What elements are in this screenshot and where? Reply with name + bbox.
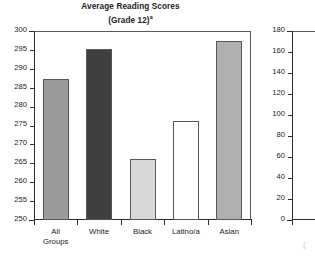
x-axis-label-line: Asian	[208, 227, 251, 237]
x-axis-label-line: Groups	[34, 237, 77, 247]
x-axis-label-line: Black	[121, 227, 164, 237]
x-axis-label-line: White	[77, 227, 120, 237]
chart-subtitle: (Grade 12)	[108, 16, 150, 25]
secondary-y-axis-tick-label: 60	[277, 152, 285, 160]
x-axis-label-asian: Asian	[208, 227, 251, 237]
x-axis-tick-mark	[34, 220, 35, 225]
secondary-y-axis-tick-label: 100	[272, 110, 285, 118]
y-axis-tick-label: 290	[14, 64, 27, 72]
bar-series	[34, 31, 251, 220]
y-axis-tick-label: 255	[14, 196, 27, 204]
x-axis-tick-mark	[208, 220, 209, 225]
chart-title-line-2: (Grade 12)a	[28, 12, 233, 26]
x-axis-label-line: All	[34, 227, 77, 237]
bar-latino-a	[173, 121, 199, 220]
secondary-y-axis-tick-label: 20	[277, 194, 285, 202]
x-axis-label-white: White	[77, 227, 120, 237]
secondary-y-axis-tick-mark	[288, 52, 292, 53]
page-title: Average Reading Scores (Grade 12)a	[28, 2, 233, 27]
secondary-y-axis-tick-label: 160	[272, 47, 285, 55]
bar-white	[86, 49, 112, 220]
y-axis-tick-label: 295	[14, 45, 27, 53]
secondary-y-axis-tick-label: 120	[272, 89, 285, 97]
y-axis-tick-label: 270	[14, 139, 27, 147]
secondary-x-tick	[292, 220, 293, 225]
secondary-y-axis-tick-mark	[288, 94, 292, 95]
secondary-y-axis-tick-mark	[288, 136, 292, 137]
bar-all-groups	[43, 79, 69, 220]
secondary-chart-plot-area	[292, 31, 315, 220]
secondary-y-axis-tick-label: 140	[272, 68, 285, 76]
y-axis-tick-label: 285	[14, 83, 27, 91]
secondary-y-axis-tick-mark	[287, 31, 293, 32]
secondary-y-axis-tick-label: 180	[272, 26, 285, 34]
x-axis-label-line: Latino/a	[164, 227, 207, 237]
secondary-y-axis-tick-mark	[288, 199, 292, 200]
secondary-y-axis-tick-label: 40	[277, 173, 285, 181]
x-axis-label-all-groups: AllGroups	[34, 227, 77, 248]
x-axis-tick-mark	[77, 220, 78, 225]
y-axis-tick-label: 300	[14, 26, 27, 34]
y-axis-tick-label: 280	[14, 101, 27, 109]
secondary-y-axis-tick-mark	[288, 178, 292, 179]
bar-black	[130, 159, 156, 220]
secondary-y-axis-tick-label: 0	[281, 215, 285, 223]
x-axis-label-latino-a: Latino/a	[164, 227, 207, 237]
secondary-y-axis-tick-mark	[288, 115, 292, 116]
y-axis-tick-label: 260	[14, 177, 27, 185]
secondary-y-axis-tick-label: 80	[277, 131, 285, 139]
x-axis-label-black: Black	[121, 227, 164, 237]
secondary-y-axis-tick-mark	[288, 157, 292, 158]
footnote-marker: a	[150, 14, 153, 20]
secondary-stub-label: (	[303, 240, 306, 249]
x-axis-tick-mark	[251, 220, 252, 225]
chart-page: Average Reading Scores (Grade 12)a 30029…	[0, 0, 315, 259]
y-axis-tick-label: 250	[14, 215, 27, 223]
y-axis-tick-label: 275	[14, 120, 27, 128]
secondary-y-axis-tick-mark	[288, 73, 292, 74]
x-axis-tick-mark	[164, 220, 165, 225]
bar-asian	[216, 41, 242, 220]
y-axis-tick-label: 265	[14, 158, 27, 166]
x-axis-tick-mark	[121, 220, 122, 225]
chart-title-line-1: Average Reading Scores	[28, 2, 233, 12]
